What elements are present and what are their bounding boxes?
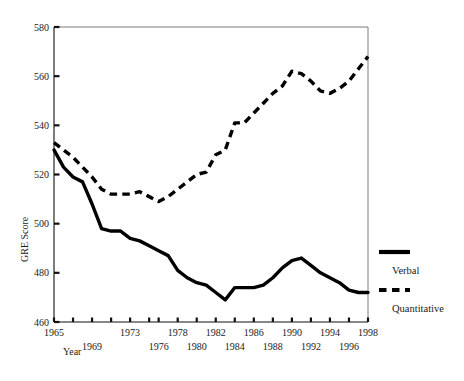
legend-label-verbal: Verbal — [392, 265, 419, 276]
gre-score-line-chart: 460480500520540560580 196519731978198219… — [0, 0, 464, 381]
y-tick-label: 460 — [34, 317, 49, 328]
x-tick-label-upper: 1982 — [206, 327, 226, 338]
x-tick-label-lower: 1980 — [187, 341, 207, 352]
legend: Verbal Quantitative — [379, 252, 444, 314]
x-tick-label-lower: 1988 — [263, 341, 283, 352]
x-tick-label-upper: 1965 — [44, 327, 64, 338]
y-axis-tick-labels: 460480500520540560580 — [34, 22, 49, 328]
x-tick-label-upper: 1998 — [358, 327, 378, 338]
series-line-verbal — [54, 150, 368, 300]
x-tick-label-upper: 1978 — [168, 327, 188, 338]
y-tick-label: 560 — [34, 71, 49, 82]
plot-frame — [54, 27, 368, 322]
y-tick-label: 580 — [34, 22, 49, 33]
y-tick-label: 520 — [34, 169, 49, 180]
x-tick-label-upper: 1986 — [244, 327, 264, 338]
y-tick-label: 540 — [34, 120, 49, 131]
x-tick-label-lower: 1976 — [149, 341, 169, 352]
y-axis-title: GRE Score — [19, 216, 30, 262]
y-tick-label: 500 — [34, 218, 49, 229]
x-axis-ticks — [54, 318, 368, 323]
y-axis-ticks — [54, 27, 60, 322]
x-tick-label-lower: 1996 — [339, 341, 359, 352]
legend-label-quantitative: Quantitative — [392, 303, 444, 314]
chart-svg: 460480500520540560580 196519731978198219… — [0, 0, 464, 381]
x-axis-tick-labels: 1965197319781982198619901994199819691976… — [44, 327, 378, 352]
x-tick-label-upper: 1994 — [320, 327, 340, 338]
y-tick-label: 480 — [34, 267, 49, 278]
x-axis-title: Year — [63, 346, 82, 357]
x-tick-label-upper: 1973 — [120, 327, 140, 338]
x-tick-label-lower: 1969 — [82, 341, 102, 352]
x-tick-label-lower: 1984 — [225, 341, 245, 352]
x-tick-label-upper: 1990 — [282, 327, 302, 338]
series-line-quantitative — [54, 57, 368, 202]
x-tick-label-lower: 1992 — [301, 341, 321, 352]
